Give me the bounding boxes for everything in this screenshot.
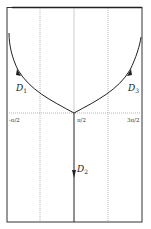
tick-label-neg-pi-half: -π/2 [9,117,20,123]
label-d2: D2 [76,164,88,175]
tick-label-3pi-half: 3π/2 [127,117,139,123]
trajectory-diagram: -π/2 π/2 3π/2 D1 D2 D3 [0,0,151,229]
tick-label-pi-half: π/2 [77,117,86,123]
arrow-d2-icon [72,170,76,178]
label-d1: D1 [15,83,27,94]
label-d3: D3 [127,83,139,94]
